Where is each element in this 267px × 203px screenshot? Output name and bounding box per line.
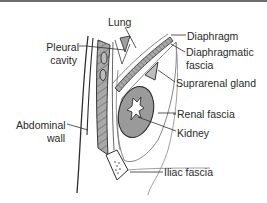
muscle-column: [97, 40, 111, 155]
rib-oval-lower: [100, 70, 106, 81]
label-pleural-cavity-line1: Pleural: [42, 41, 79, 53]
label-iliac-fascia: Iliac fascia: [164, 166, 213, 178]
label-diaphragmatic-fascia-line2: fascia: [186, 59, 213, 71]
label-abdominal-wall-line2: wall: [47, 132, 65, 144]
label-diaphragmatic-fascia-line1: Diaphragmatic: [186, 46, 254, 58]
label-diaphragm: Diaphragm: [187, 30, 238, 42]
label-lung: Lung: [108, 16, 131, 28]
label-kidney: Kidney: [177, 127, 209, 139]
label-pleural-cavity-line2: cavity: [44, 54, 77, 66]
label-suprarenal-gland: Suprarenal gland: [176, 77, 256, 89]
rib-oval-upper: [101, 52, 107, 64]
label-abdominal-wall-line1: Abdominal: [16, 119, 66, 131]
label-renal-fascia: Renal fascia: [177, 108, 235, 120]
diaphragm: [112, 34, 173, 92]
abdominal-wall: [77, 36, 93, 193]
